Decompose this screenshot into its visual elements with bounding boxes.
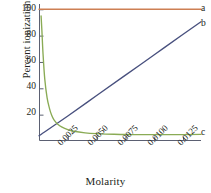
x-axis-label: Molarity: [0, 175, 211, 187]
x-axis-tick-labels: 0.0025 0.0050 0.0075 0.0100 0.0125: [0, 141, 211, 175]
series-line-c: [41, 16, 201, 135]
series-label-a: a: [201, 4, 205, 14]
series-label-b: b: [201, 19, 206, 29]
y-axis-tick-labels: 100 80 60 40 20: [6, 0, 36, 145]
y-tick-label: 40: [10, 82, 36, 92]
y-tick-label: 80: [10, 30, 36, 40]
series-line-b: [39, 22, 201, 136]
y-tick-label: 100: [10, 4, 36, 14]
plot-canvas: [39, 4, 201, 141]
y-tick-label: 60: [10, 56, 36, 66]
series-label-c: c: [201, 128, 205, 138]
data-series-group: [39, 9, 201, 135]
y-tick-label: 20: [10, 108, 36, 118]
chart-figure: Percent ionization 100 80 60 40 20 a b c…: [0, 0, 211, 193]
plot-area: [39, 4, 201, 141]
